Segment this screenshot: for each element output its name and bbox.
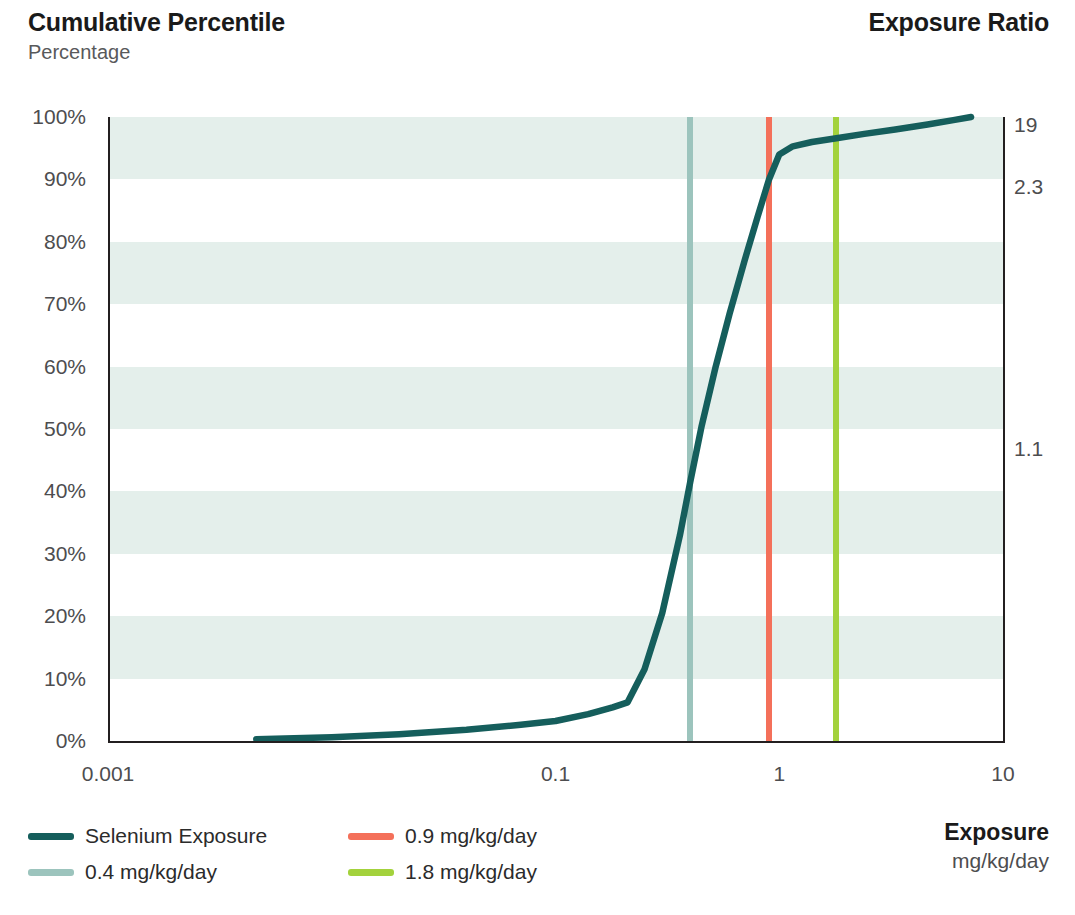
- x-axis-title-block: Exposure mg/kg/day: [944, 818, 1049, 874]
- legend-item-1-8-mg-kg-day[interactable]: 1.8 mg/kg/day: [348, 860, 537, 884]
- x-tick-label: 10: [991, 762, 1014, 786]
- legend-swatch-icon: [28, 833, 74, 840]
- legend-item-label: 0.4 mg/kg/day: [85, 860, 217, 884]
- plot-area: [108, 117, 1003, 741]
- y-tick-label: 0%: [56, 729, 86, 753]
- y-tick-label: 40%: [44, 479, 86, 503]
- legend-item-selenium-exposure[interactable]: Selenium Exposure: [28, 824, 348, 848]
- x-axis-tick-labels: 0.0010.1110: [0, 762, 1075, 802]
- y-tick-label: 90%: [44, 167, 86, 191]
- x-tick-label: 0.1: [541, 762, 570, 786]
- page-title: Cumulative Percentile: [28, 8, 628, 37]
- legend-item-0-9-mg-kg-day[interactable]: 0.9 mg/kg/day: [348, 824, 537, 848]
- caption-cutoff: [28, 906, 1038, 915]
- legend-item-label: 0.9 mg/kg/day: [405, 824, 537, 848]
- y-tick-label: 50%: [44, 417, 86, 441]
- x-axis-title-text: Exposure: [944, 818, 1049, 847]
- y2-axis-line: [1003, 117, 1005, 743]
- y-tick-label: 60%: [44, 355, 86, 379]
- legend-row: Selenium Exposure 0.9 mg/kg/day: [28, 818, 788, 854]
- x-tick-label: 0.001: [82, 762, 135, 786]
- y2-tick-label: 1.1: [1014, 437, 1043, 461]
- y-axis-line: [108, 117, 110, 743]
- y2-tick-label: 19: [1014, 113, 1037, 137]
- y-tick-label: 30%: [44, 542, 86, 566]
- legend-item-0-4-mg-kg-day[interactable]: 0.4 mg/kg/day: [28, 860, 348, 884]
- y2-tick-label: 2.3: [1014, 175, 1043, 199]
- legend-swatch-icon: [348, 869, 394, 876]
- legend-swatch-icon: [28, 869, 74, 876]
- y-tick-label: 20%: [44, 604, 86, 628]
- chart-header-left: Cumulative Percentile Percentage: [28, 8, 628, 66]
- x-axis-line: [108, 741, 1005, 743]
- legend-item-label: 1.8 mg/kg/day: [405, 860, 537, 884]
- legend-item-label: Selenium Exposure: [85, 824, 267, 848]
- legend-swatch-icon: [348, 833, 394, 840]
- x-axis-units-text: mg/kg/day: [944, 847, 1049, 874]
- selenium-exposure-line: [256, 117, 971, 739]
- y-tick-label: 70%: [44, 292, 86, 316]
- x-tick-label: 1: [773, 762, 785, 786]
- series-curve-svg: [108, 117, 1003, 741]
- legend-row: 0.4 mg/kg/day 1.8 mg/kg/day: [28, 854, 788, 890]
- legend: Selenium Exposure 0.9 mg/kg/day 0.4 mg/k…: [28, 818, 788, 890]
- y-tick-label: 100%: [32, 105, 86, 129]
- page-subtitle: Percentage: [28, 39, 628, 66]
- y-tick-label: 80%: [44, 230, 86, 254]
- y-tick-label: 10%: [44, 667, 86, 691]
